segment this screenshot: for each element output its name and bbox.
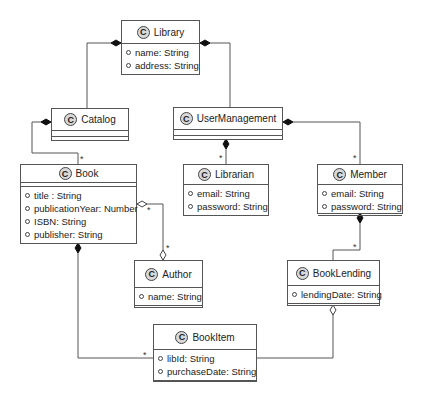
class-name: BookItem bbox=[192, 332, 234, 343]
class-name: Author bbox=[162, 269, 191, 280]
class-librarian[interactable]: C Librarian email: String password: Stri… bbox=[183, 164, 269, 216]
operation-list bbox=[122, 75, 199, 80]
class-header: C Member bbox=[318, 165, 402, 185]
attribute: purchaseDate: String bbox=[158, 365, 252, 378]
class-member[interactable]: C Member email: String password: String bbox=[317, 164, 403, 214]
attribute: publicationYear: Number bbox=[25, 202, 132, 215]
class-book[interactable]: C Book title : String publicationYear: N… bbox=[20, 164, 137, 244]
visibility-circle-icon bbox=[25, 219, 30, 224]
attribute: password: String bbox=[188, 200, 264, 213]
class-diagram: * * * * * * * C Library name: String add… bbox=[0, 0, 421, 396]
class-header: C Library bbox=[122, 21, 199, 44]
class-usermanagement[interactable]: C UserManagement bbox=[173, 107, 283, 140]
attribute: name: String bbox=[139, 290, 198, 303]
multiplicity-label: * bbox=[353, 153, 357, 163]
attribute-list: name: String address: String bbox=[122, 44, 199, 75]
attribute-list: email: String password: String bbox=[184, 185, 268, 216]
class-c-icon: C bbox=[59, 167, 72, 180]
operation-list bbox=[288, 304, 379, 309]
attribute: name: String bbox=[126, 46, 195, 59]
aggregation-diamond-icon bbox=[137, 201, 147, 207]
multiplicity-label: * bbox=[166, 243, 170, 253]
attribute-list: name: String bbox=[135, 288, 202, 306]
operation-list bbox=[154, 381, 256, 386]
visibility-circle-icon bbox=[158, 369, 163, 374]
visibility-circle-icon bbox=[292, 292, 297, 297]
visibility-circle-icon bbox=[188, 204, 193, 209]
class-c-icon: C bbox=[180, 112, 193, 125]
multiplicity-label: * bbox=[353, 242, 357, 252]
composition-diamond-icon bbox=[283, 119, 293, 125]
class-c-icon: C bbox=[333, 168, 346, 181]
visibility-circle-icon bbox=[158, 356, 163, 361]
class-booklending[interactable]: C BookLending lendingDate: String bbox=[287, 260, 380, 306]
operation-list bbox=[21, 244, 136, 249]
visibility-circle-icon bbox=[188, 191, 193, 196]
operation-list bbox=[174, 136, 282, 141]
class-library[interactable]: C Library name: String address: String bbox=[121, 20, 200, 75]
class-name: UserManagement bbox=[197, 113, 276, 124]
attribute: libId: String bbox=[158, 352, 252, 365]
class-header: C BookLending bbox=[288, 261, 379, 286]
attribute-list: libId: String purchaseDate: String bbox=[154, 350, 256, 381]
operation-list bbox=[318, 216, 402, 221]
class-bookitem[interactable]: C BookItem libId: String purchaseDate: S… bbox=[153, 324, 257, 382]
attribute: lendingDate: String bbox=[292, 288, 375, 301]
composition-diamond-icon bbox=[200, 40, 210, 46]
class-c-icon: C bbox=[137, 26, 150, 39]
visibility-circle-icon bbox=[25, 193, 30, 198]
attribute: email: String bbox=[322, 187, 398, 200]
operation-list bbox=[184, 216, 268, 221]
class-header: C Book bbox=[21, 165, 136, 183]
attribute: password: String bbox=[322, 200, 398, 213]
visibility-circle-icon bbox=[139, 294, 144, 299]
class-name: BookLending bbox=[313, 268, 371, 279]
class-header: C BookItem bbox=[154, 325, 256, 350]
class-c-icon: C bbox=[145, 268, 158, 281]
class-name: Book bbox=[76, 168, 99, 179]
visibility-circle-icon bbox=[322, 204, 327, 209]
class-catalog[interactable]: C Catalog bbox=[51, 108, 129, 141]
attribute-list: email: String password: String bbox=[318, 185, 402, 216]
multiplicity-label: * bbox=[147, 205, 151, 215]
attribute-list: lendingDate: String bbox=[288, 286, 379, 304]
composition-diamond-icon bbox=[41, 119, 51, 125]
class-name: Member bbox=[350, 169, 387, 180]
attribute-list: title : String publicationYear: Number I… bbox=[21, 187, 136, 244]
class-header: C Librarian bbox=[184, 165, 268, 185]
class-name: Librarian bbox=[215, 169, 254, 180]
class-c-icon: C bbox=[175, 331, 188, 344]
class-author[interactable]: C Author name: String bbox=[134, 260, 203, 308]
attribute: email: String bbox=[188, 187, 264, 200]
class-header: C Author bbox=[135, 261, 202, 288]
visibility-circle-icon bbox=[25, 206, 30, 211]
multiplicity-label: * bbox=[80, 154, 84, 164]
class-c-icon: C bbox=[198, 168, 211, 181]
class-header: C UserManagement bbox=[174, 108, 282, 130]
visibility-circle-icon bbox=[322, 191, 327, 196]
class-c-icon: C bbox=[64, 113, 77, 126]
visibility-circle-icon bbox=[25, 232, 30, 237]
attribute: publisher: String bbox=[25, 228, 132, 241]
class-c-icon: C bbox=[296, 267, 309, 280]
attribute: address: String bbox=[126, 59, 195, 72]
composition-diamond-icon bbox=[111, 40, 121, 46]
operation-list bbox=[52, 137, 128, 142]
visibility-circle-icon bbox=[126, 63, 131, 68]
visibility-circle-icon bbox=[126, 50, 131, 55]
multiplicity-label: * bbox=[219, 153, 223, 163]
attribute: ISBN: String bbox=[25, 215, 132, 228]
multiplicity-label: * bbox=[143, 350, 147, 360]
attribute: title : String bbox=[25, 189, 132, 202]
class-name: Catalog bbox=[81, 114, 115, 125]
class-name: Library bbox=[154, 27, 185, 38]
operation-list bbox=[135, 306, 202, 311]
class-header: C Catalog bbox=[52, 109, 128, 131]
